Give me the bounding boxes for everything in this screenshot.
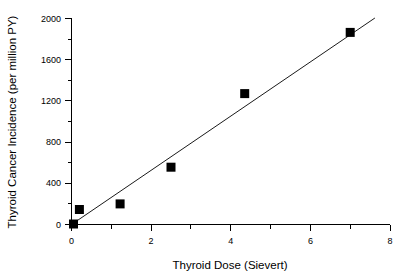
- y-tick-label-0: 0: [56, 220, 61, 230]
- x-tick-label-4: 4: [228, 236, 233, 246]
- data-point-marker: [240, 89, 249, 98]
- y-tick-label-2000: 2000: [41, 14, 61, 24]
- y-tick-label-800: 800: [46, 137, 61, 147]
- data-point-marker: [346, 28, 355, 37]
- x-tick-label-0: 0: [69, 236, 74, 246]
- x-tick-label-2: 2: [149, 236, 154, 246]
- data-point-marker: [116, 199, 125, 208]
- x-axis-title: Thyroid Dose (Sievert): [172, 259, 287, 271]
- y-tick-label-1600: 1600: [41, 55, 61, 65]
- x-tick-label-8: 8: [387, 236, 392, 246]
- data-point-marker: [69, 220, 78, 229]
- y-tick-label-1200: 1200: [41, 96, 61, 106]
- thyroid-dose-response-chart: 0 400 800 1200 1600 2000 0 2 4 6 8: [0, 0, 406, 279]
- y-axis-title: Thyroid Cancer Incidence (per million PY…: [6, 15, 18, 228]
- y-tick-label-400: 400: [46, 178, 61, 188]
- chart-canvas: 0 400 800 1200 1600 2000 0 2 4 6 8: [0, 0, 406, 279]
- data-point-marker: [75, 205, 84, 214]
- x-tick-label-6: 6: [308, 236, 313, 246]
- data-point-marker: [167, 163, 176, 172]
